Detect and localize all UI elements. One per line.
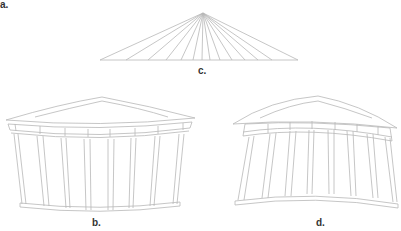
label-d: d.: [316, 218, 325, 228]
label-c: c.: [198, 66, 206, 76]
panel-c-fan: [100, 13, 298, 60]
panel-b-temple: [6, 97, 195, 211]
label-b: b.: [92, 218, 101, 228]
label-a: a.: [0, 0, 8, 10]
pediment-inner: [35, 101, 168, 117]
panel-d-temple: [233, 96, 398, 208]
diagram-canvas: [0, 0, 401, 231]
